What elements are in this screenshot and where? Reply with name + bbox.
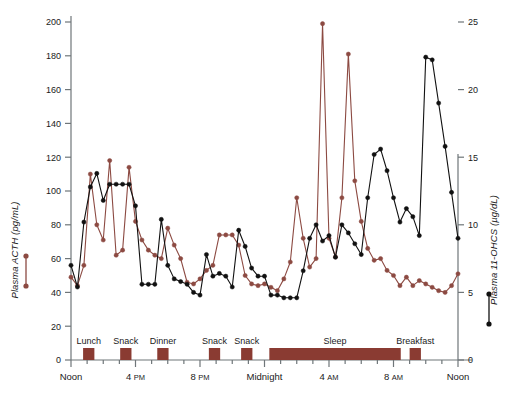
series-line-1	[71, 57, 458, 298]
data-point	[314, 257, 318, 261]
data-point	[417, 278, 421, 282]
data-point	[191, 290, 195, 294]
data-point	[172, 243, 176, 247]
data-point	[411, 215, 415, 219]
data-point	[333, 255, 337, 259]
chart-svg: 0204060801001201401601802000510152025Noo…	[0, 0, 515, 406]
data-point	[82, 263, 86, 267]
data-point	[449, 190, 453, 194]
data-point	[385, 268, 389, 272]
y-tick-label-right: 25	[468, 17, 478, 27]
data-point	[250, 282, 254, 286]
data-point	[379, 147, 383, 151]
y-tick-label-left: 200	[46, 17, 61, 27]
data-point	[82, 220, 86, 224]
data-point	[185, 282, 189, 286]
data-point	[243, 244, 247, 248]
y-tick-label-left: 40	[51, 288, 61, 298]
data-point	[166, 226, 170, 230]
data-point	[140, 282, 144, 286]
y-tick-label-right: 10	[468, 220, 478, 230]
data-point	[250, 266, 254, 270]
data-point	[95, 171, 99, 175]
y-tick-label-right: 20	[468, 85, 478, 95]
event-bar	[241, 348, 252, 360]
data-point	[443, 290, 447, 294]
event-bar-label: Snack	[113, 336, 139, 346]
data-point	[204, 268, 208, 272]
event-bar-label: Snack	[202, 336, 228, 346]
data-point	[417, 234, 421, 238]
y-tick-label-left: 120	[46, 153, 61, 163]
data-point	[346, 52, 350, 56]
series-line-0	[71, 24, 458, 293]
data-point	[146, 282, 150, 286]
data-point	[456, 236, 460, 240]
data-point	[159, 257, 163, 261]
data-point	[204, 252, 208, 256]
data-point	[191, 282, 195, 286]
data-point	[430, 58, 434, 62]
data-point	[230, 285, 234, 289]
data-point	[217, 271, 221, 275]
data-point	[301, 269, 305, 273]
data-point	[404, 206, 408, 210]
chart-figure: 0204060801001201401601802000510152025Noo…	[0, 0, 515, 406]
data-point	[101, 238, 105, 242]
data-point	[327, 234, 331, 238]
data-point	[437, 289, 441, 293]
data-point	[179, 257, 183, 261]
data-point	[127, 165, 131, 169]
data-point	[398, 284, 402, 288]
data-point	[256, 274, 260, 278]
data-point	[237, 228, 241, 232]
data-point	[88, 185, 92, 189]
data-point	[127, 182, 131, 186]
data-point	[88, 172, 92, 176]
event-bar	[83, 348, 94, 360]
event-bar-label: Snack	[234, 336, 260, 346]
event-bar	[410, 348, 421, 360]
data-point	[198, 293, 202, 297]
data-point	[366, 246, 370, 250]
data-point	[179, 279, 183, 283]
data-point	[243, 273, 247, 277]
data-point	[295, 296, 299, 300]
data-point	[398, 220, 402, 224]
y-axis-title-left: Plasma ACTH (pg/mL)	[9, 201, 20, 298]
data-point	[198, 277, 202, 281]
x-tick-label: 4 PM	[126, 371, 145, 382]
data-point	[211, 263, 215, 267]
data-point	[121, 248, 125, 252]
data-point	[372, 258, 376, 262]
data-point	[133, 204, 137, 208]
data-point	[114, 182, 118, 186]
data-point	[224, 274, 228, 278]
legend-dot-ohcs-top	[486, 291, 491, 296]
data-point	[269, 285, 273, 289]
data-point	[159, 217, 163, 221]
legend-dot-acth-top	[23, 253, 28, 258]
event-bar	[120, 348, 131, 360]
data-point	[101, 198, 105, 202]
data-point	[366, 196, 370, 200]
data-point	[359, 252, 363, 256]
data-point	[140, 238, 144, 242]
data-point	[69, 275, 73, 279]
data-point	[262, 282, 266, 286]
data-point	[424, 55, 428, 59]
data-point	[308, 265, 312, 269]
data-point	[340, 223, 344, 227]
data-point	[288, 260, 292, 264]
data-point	[301, 236, 305, 240]
data-point	[320, 22, 324, 26]
y-tick-label-right: 0	[468, 355, 473, 365]
data-point	[69, 263, 73, 267]
data-point	[153, 282, 157, 286]
data-point	[262, 274, 266, 278]
data-point	[230, 233, 234, 237]
data-point	[153, 253, 157, 257]
data-point	[372, 152, 376, 156]
y-tick-label-left: 140	[46, 119, 61, 129]
data-point	[217, 233, 221, 237]
